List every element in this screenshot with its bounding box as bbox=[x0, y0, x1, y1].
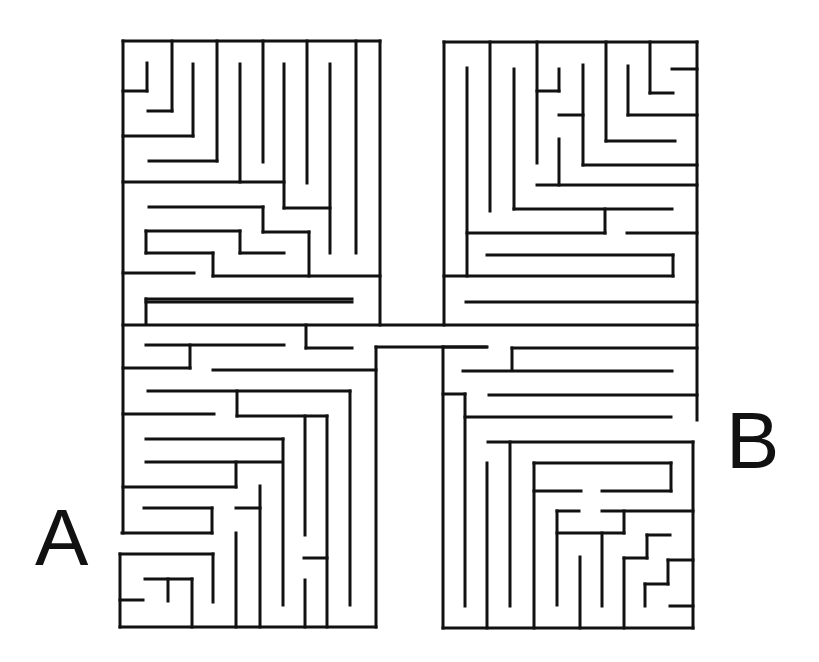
end-label-b: B bbox=[726, 401, 779, 481]
maze-walls bbox=[120, 41, 697, 628]
start-label-a: A bbox=[35, 498, 88, 578]
maze bbox=[0, 0, 819, 662]
